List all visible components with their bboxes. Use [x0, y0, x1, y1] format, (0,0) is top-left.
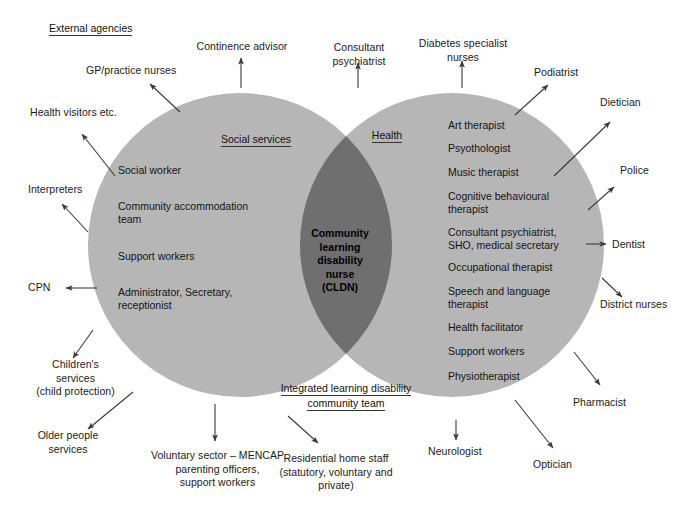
right-entry-art-therapist: Art therapist [448, 119, 628, 132]
arrow-interpreters [62, 204, 88, 232]
label-neurologist: Neurologist [428, 445, 482, 459]
arrow-health-visitors [82, 134, 115, 176]
external-agencies-heading: External agencies [49, 22, 132, 34]
right-entry-occupational-therapist: Occupational therapist [448, 261, 628, 274]
label-continence-advisor: Continence advisor [172, 40, 312, 54]
label-dentist: Dentist [612, 238, 645, 252]
label-older-people-services: Older people services [18, 429, 118, 456]
left-entry-support-workers: Support workers [118, 250, 288, 263]
label-podiatrist: Podiatrist [534, 66, 578, 80]
right-entry-physiotherapist: Physiotherapist [448, 370, 628, 383]
right-entry-support-workers: Support workers [448, 345, 628, 358]
label-optician: Optician [533, 458, 572, 472]
health-heading: Health [342, 114, 432, 142]
left-entry-social-worker: Social worker [118, 164, 288, 177]
left-entry-community-accommodation-team: Community accommodation team [118, 200, 298, 226]
label-dietician: Dietician [600, 96, 641, 110]
label-police: Police [620, 164, 649, 178]
label-health-visitors: Health visitors etc. [30, 106, 117, 120]
right-entry-music-therapist: Music therapist [448, 166, 628, 179]
left-entry-administrator-secretary-receptionist: Administrator, Secretary, receptionist [118, 286, 298, 312]
cldn-label: Community learning disability nurse (CLD… [285, 227, 395, 295]
right-entry-cognitive-behavioural-therapist: Cognitive behavioural therapist [448, 190, 628, 216]
arrow-residential-home-staff [288, 416, 318, 443]
label-cpn: CPN [28, 281, 50, 295]
label-residential-home-staff: Residential home staff (statutory, volun… [256, 452, 416, 493]
right-entry-psychologist: Psyothologist [448, 142, 628, 155]
label-childrens-services: Children's services (child protection) [18, 358, 133, 399]
right-entry-consultant-psychiatrist-sho: Consultant psychiatrist, SHO, medical se… [448, 226, 628, 252]
social-services-heading: Social services [196, 118, 316, 146]
label-pharmacist: Pharmacist [573, 396, 626, 410]
label-gp-practice-nurses: GP/practice nurses [86, 64, 176, 78]
venn-diagram-page: External agencies Social services Health… [0, 0, 695, 518]
label-consultant-psychiatrist: Consultant psychiatrist [320, 41, 398, 68]
arrow-gp-practice-nurses [150, 84, 180, 112]
label-district-nurses: District nurses [600, 298, 667, 312]
label-interpreters: Interpreters [28, 183, 82, 197]
arrow-optician [515, 400, 553, 448]
arrow-podiatrist [515, 85, 548, 115]
arrow-childrens-services [73, 330, 93, 358]
right-entry-health-facilitator: Health facilitator [448, 321, 628, 334]
integrated-team-heading: Integrated learning disability community… [266, 366, 426, 411]
label-diabetes-specialist-nurses: Diabetes specialist nurses [404, 37, 522, 64]
